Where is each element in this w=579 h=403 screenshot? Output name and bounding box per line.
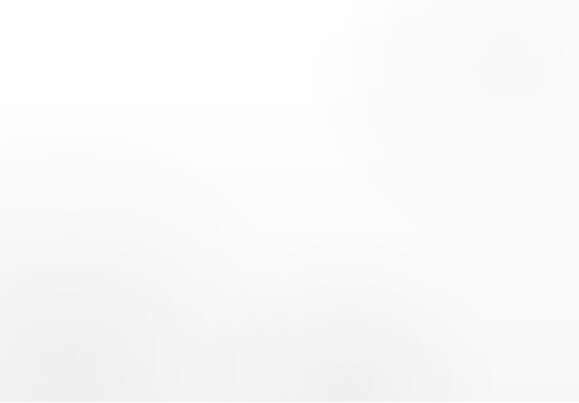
- bar-segment-2017-1[interactable]: [48, 178, 137, 205]
- x-tick-label-2019: 2019: [245, 359, 335, 373]
- bar-segment-2020-4[interactable]: [344, 239, 433, 284]
- bar-segment-2021-1[interactable]: [443, 103, 532, 136]
- bar-segment-2017-6[interactable]: [48, 328, 137, 355]
- bar-segment-2020-3[interactable]: [344, 193, 433, 235]
- bar-segment-2017-4[interactable]: [48, 269, 137, 295]
- bar-segment-2020-6[interactable]: [344, 323, 433, 355]
- bar-segment-2021-6[interactable]: [443, 324, 532, 355]
- bar-segment-2021-3[interactable]: [443, 187, 532, 237]
- x-tick-label-2020: 2020: [344, 359, 434, 373]
- bar-segment-2020-2[interactable]: [344, 158, 433, 189]
- bar-segment-2018-2[interactable]: [147, 199, 236, 230]
- bar-stack-2021[interactable]: [443, 103, 532, 355]
- bar-segment-2018-5[interactable]: [147, 298, 236, 326]
- bar-segment-2019-6[interactable]: [245, 327, 334, 355]
- bar-stack-2017[interactable]: [48, 178, 137, 355]
- bar-segment-2018-6[interactable]: [147, 330, 236, 355]
- bar-segment-2021-5[interactable]: [443, 287, 532, 320]
- bar-segment-2019-1[interactable]: [245, 148, 334, 177]
- bar-segment-2019-5[interactable]: [245, 294, 334, 323]
- bar-stack-2018[interactable]: [147, 165, 236, 355]
- x-tick-label-2017: 2017: [48, 359, 138, 373]
- bar-segment-2017-2[interactable]: [48, 209, 137, 233]
- x-axis-line: [40, 355, 534, 356]
- bar-segment-2021-4[interactable]: [443, 241, 532, 283]
- bar-segment-2020-1[interactable]: [344, 120, 433, 154]
- bar-segment-2021-2[interactable]: [443, 140, 532, 183]
- x-tick-label-2018: 2018: [147, 359, 237, 373]
- bar-segment-2018-4[interactable]: [147, 266, 236, 294]
- bar-stack-2019[interactable]: [245, 148, 334, 355]
- bar-segment-2017-3[interactable]: [48, 237, 137, 265]
- bar-segment-2019-2[interactable]: [245, 181, 334, 211]
- bar-segment-2019-3[interactable]: [245, 215, 334, 257]
- bar-stack-2020[interactable]: [344, 120, 433, 355]
- bar-segment-2020-5[interactable]: [344, 288, 433, 319]
- bar-segment-2019-4[interactable]: [245, 261, 334, 290]
- bar-segment-2018-3[interactable]: [147, 234, 236, 262]
- bar-segment-2018-1[interactable]: [147, 165, 236, 195]
- bar-segment-2017-5[interactable]: [48, 299, 137, 324]
- x-tick-label-2021: 2021: [443, 359, 533, 373]
